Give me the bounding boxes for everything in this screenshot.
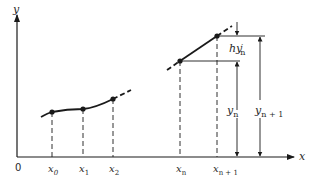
tangent-step [167, 26, 265, 157]
tangent-dashed-end [217, 26, 232, 36]
axes: y x 0 [12, 3, 306, 173]
x-axis-label: x [299, 150, 306, 163]
x-tick-labels: x0 x1 x2 xn xn + 1 [48, 163, 238, 177]
tick-x2: x2 [109, 163, 119, 177]
annotations: hy′n yn yn + 1 [226, 42, 283, 119]
yn1-label: yn + 1 [254, 104, 283, 119]
yn-label: yn [226, 104, 238, 119]
tick-x0: x0 [48, 163, 59, 177]
solution-curve-left [41, 90, 131, 157]
curve-dashed-extension [113, 90, 131, 99]
increment-label: hy′n [229, 42, 245, 57]
tick-x1: x1 [79, 163, 89, 177]
origin-label: 0 [15, 162, 21, 173]
tick-xn1: xn + 1 [213, 163, 238, 177]
euler-method-diagram: y x 0 hy′n yn yn + 1 [0, 0, 311, 179]
tick-xn: xn [176, 163, 187, 177]
y-axis-label: y [12, 3, 20, 16]
tangent-solid [180, 36, 217, 61]
